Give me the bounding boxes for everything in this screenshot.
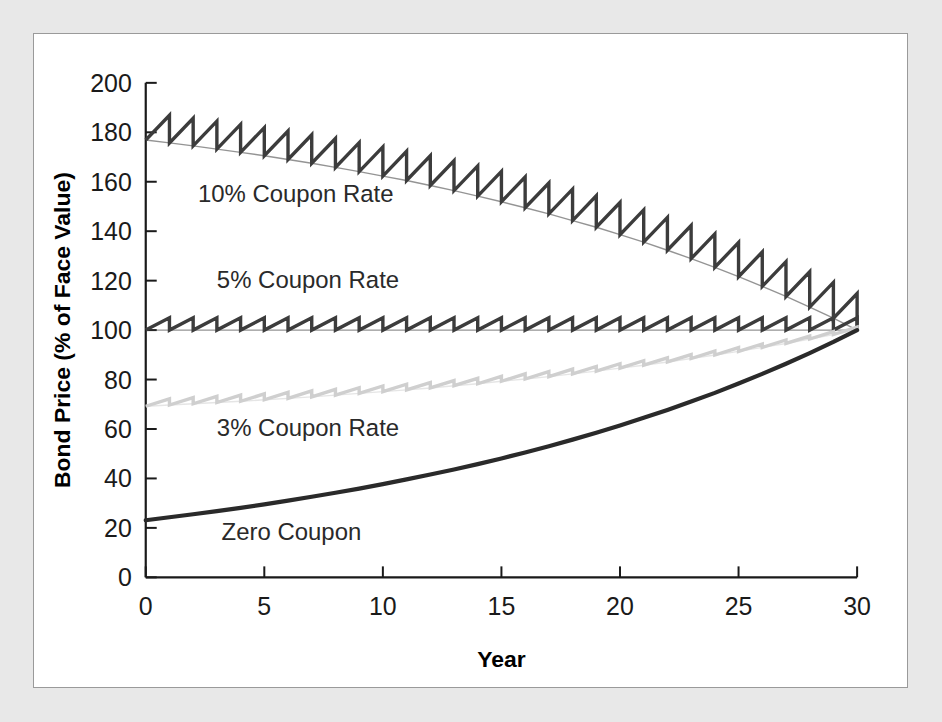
x-axis-tick-labels: 051015202530 — [139, 592, 871, 620]
x-tick-label: 25 — [725, 592, 753, 620]
y-tick-label: 160 — [90, 168, 132, 196]
y-tick-label: 20 — [104, 514, 132, 542]
y-axis-title: Bond Price (% of Face Value) — [49, 172, 75, 488]
y-tick-label: 40 — [104, 464, 132, 492]
x-tick-label: 0 — [139, 592, 153, 620]
x-tick-label: 5 — [257, 592, 271, 620]
series-sawtooth — [146, 327, 857, 406]
series-annotations: 10% Coupon Rate5% Coupon Rate3% Coupon R… — [198, 180, 399, 546]
y-tick-label: 60 — [104, 415, 132, 443]
series-label: Zero Coupon — [222, 518, 362, 545]
x-tick-label: 15 — [488, 592, 516, 620]
series-sawtooth — [146, 115, 857, 330]
series-label: 5% Coupon Rate — [217, 266, 399, 293]
y-tick-label: 100 — [90, 316, 132, 344]
y-tick-label: 120 — [90, 267, 132, 295]
series-curves — [146, 115, 857, 520]
bond-price-chart: 020406080100120140160180200 051015202530… — [34, 34, 907, 687]
y-tick-label: 80 — [104, 366, 132, 394]
x-axis-title: Year — [477, 646, 526, 672]
y-axis-tick-labels: 020406080100120140160180200 — [90, 69, 132, 591]
figure-panel: 020406080100120140160180200 051015202530… — [33, 33, 908, 688]
y-tick-label: 140 — [90, 217, 132, 245]
x-tick-label: 30 — [843, 592, 871, 620]
x-tick-label: 20 — [606, 592, 634, 620]
series-label: 3% Coupon Rate — [217, 414, 399, 441]
series-envelope — [146, 140, 857, 330]
series-label: 10% Coupon Rate — [198, 180, 394, 207]
series-envelope — [146, 330, 857, 406]
y-tick-label: 200 — [90, 69, 132, 97]
y-tick-label: 180 — [90, 118, 132, 146]
x-tick-label: 10 — [369, 592, 397, 620]
y-tick-label: 0 — [118, 563, 132, 591]
series-sawtooth — [146, 318, 857, 330]
